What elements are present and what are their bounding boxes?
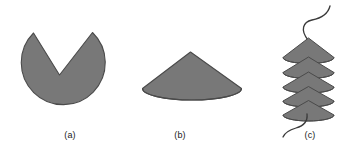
helix-curve-top (303, 6, 330, 40)
caption-a: (a) (40, 130, 100, 140)
cone-body (143, 52, 242, 100)
caption-c: (c) (280, 130, 340, 140)
shape-b-cone (143, 52, 242, 100)
shape-c-stacked-cones (283, 6, 334, 137)
circle-notch-body (21, 33, 105, 105)
shape-a-circle-with-v-notch (21, 33, 105, 105)
figure-container: (a) (b) (c) (0, 0, 346, 159)
caption-b: (b) (150, 130, 210, 140)
